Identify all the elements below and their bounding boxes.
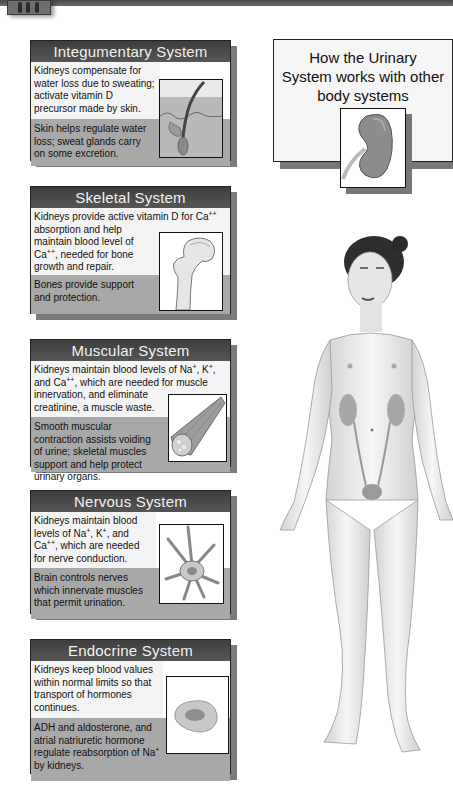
kidney-effect-text: Kidneys keep blood values within normal … [31,661,163,718]
card-integumentary-system: Integumentary System Kidneys compensate … [30,40,231,161]
page-title: How the Urinary System works with other … [274,48,452,105]
top-banner-bar [0,0,453,6]
card-heading: Skeletal System [31,187,230,208]
muscle-fiber-icon [168,394,227,462]
card-muscular-system: Muscular System Kidneys maintain blood l… [30,339,231,467]
kidney-effect-text: Kidneys maintain blood levels of Na+, K+… [31,512,156,568]
card-heading: Endocrine System [31,640,230,661]
skin-hair-follicle-icon [159,79,223,158]
human-female-urinary-anatomy-illustration [270,230,453,790]
neuron-icon [159,524,224,604]
card-skeletal-system: Skeletal System Kidneys provide active v… [30,186,231,314]
kidney-effect-text: Kidneys compensate for water loss due to… [31,62,160,119]
card-heading: Integumentary System [31,41,230,62]
chapter-thumbnail-image [7,0,51,15]
card-nervous-system: Nervous System Kidneys maintain blood le… [30,490,231,614]
kidney-icon [340,108,406,188]
endocrine-gland-icon [166,676,229,754]
card-heading: Muscular System [31,340,230,361]
card-endocrine-system: Endocrine System Kidneys keep blood valu… [30,639,231,774]
femur-bone-icon [159,232,223,311]
card-heading: Nervous System [31,491,230,512]
